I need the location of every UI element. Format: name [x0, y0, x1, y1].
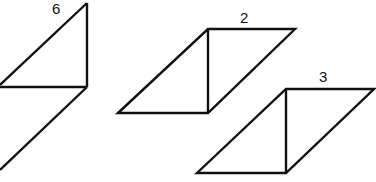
parallelogram-diagram [0, 0, 376, 182]
label-2: 2 [240, 10, 248, 25]
edge-line [0, 87, 87, 170]
label-6: 6 [52, 1, 60, 16]
label-3: 3 [319, 69, 327, 84]
parallelogram-2 [118, 29, 295, 113]
edge-line [0, 3, 87, 85]
